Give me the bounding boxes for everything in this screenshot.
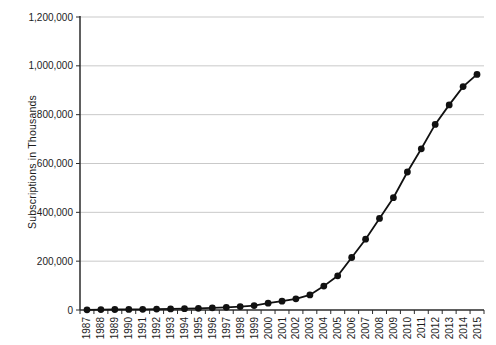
x-tick-label: 1996 xyxy=(207,317,218,340)
x-tick-label: 1987 xyxy=(81,317,92,340)
data-point-2005 xyxy=(334,272,341,279)
data-point-1993 xyxy=(167,306,174,313)
x-tick-label: 2000 xyxy=(263,317,274,340)
x-tick-label: 2011 xyxy=(416,317,427,339)
x-tick-label: 1998 xyxy=(235,317,246,340)
y-tick-label: 400,000 xyxy=(37,207,74,218)
data-points xyxy=(84,71,481,313)
x-tick-label: 2005 xyxy=(332,317,343,340)
x-tick-label: 1992 xyxy=(151,317,162,340)
data-point-2006 xyxy=(348,254,355,261)
x-tick-label: 1989 xyxy=(109,317,120,340)
x-tick-label: 1999 xyxy=(249,317,260,340)
data-point-2001 xyxy=(279,298,286,305)
y-tick-label: 600,000 xyxy=(37,158,74,169)
data-point-2003 xyxy=(307,292,314,299)
x-tick-label: 2012 xyxy=(430,317,441,340)
data-point-1998 xyxy=(237,303,244,310)
data-point-1991 xyxy=(139,306,146,313)
data-point-2007 xyxy=(362,236,369,243)
data-point-1994 xyxy=(181,305,188,312)
x-tick-label: 1993 xyxy=(165,317,176,340)
data-point-1997 xyxy=(223,304,230,311)
data-point-1990 xyxy=(125,306,132,313)
data-point-2000 xyxy=(265,300,272,307)
chart-figure: Subscriptions in Thousands 0200,000400,0… xyxy=(0,0,496,345)
x-tick-label: 2014 xyxy=(458,317,469,340)
data-point-2009 xyxy=(390,194,397,201)
y-tick-label: 1,000,000 xyxy=(29,60,74,71)
x-tick-label: 2002 xyxy=(290,317,301,340)
x-tick-label: 2008 xyxy=(374,317,385,340)
y-tick-label: 1,200,000 xyxy=(29,12,74,23)
data-point-1995 xyxy=(195,305,202,312)
x-tick-label: 2007 xyxy=(360,317,371,340)
data-point-1992 xyxy=(153,306,160,313)
y-axis-title: Subscriptions in Thousands xyxy=(26,82,38,242)
x-tick-label: 1994 xyxy=(179,317,190,340)
x-tick-label: 2009 xyxy=(388,317,399,340)
x-tick-label: 1995 xyxy=(193,317,204,340)
x-tick-label: 2013 xyxy=(444,317,455,340)
data-point-2013 xyxy=(446,102,453,109)
x-tick-label: 1990 xyxy=(123,317,134,340)
data-point-1999 xyxy=(251,302,258,309)
x-tick-label: 1988 xyxy=(95,317,106,340)
data-point-2002 xyxy=(293,295,300,302)
x-tick-label: 1997 xyxy=(221,317,232,340)
data-point-2012 xyxy=(432,121,439,128)
data-point-2011 xyxy=(418,145,425,152)
data-point-1988 xyxy=(98,306,105,313)
y-tick-label: 200,000 xyxy=(37,256,74,267)
x-tick-label: 2004 xyxy=(318,317,329,340)
x-tick-label: 1991 xyxy=(137,317,148,340)
x-tick-label: 2003 xyxy=(304,317,315,340)
x-tick-label: 2001 xyxy=(277,317,288,340)
x-tick-label: 2010 xyxy=(402,317,413,340)
data-point-2010 xyxy=(404,169,411,176)
data-point-2014 xyxy=(460,83,467,90)
data-point-1987 xyxy=(84,306,91,313)
data-point-2004 xyxy=(320,283,327,290)
data-point-1989 xyxy=(111,306,118,313)
x-axis: 1987198819891990199119921993199419951996… xyxy=(80,310,484,339)
data-line xyxy=(87,74,477,309)
y-tick-label: 800,000 xyxy=(37,109,74,120)
data-point-2015 xyxy=(474,71,481,78)
x-tick-label: 2006 xyxy=(346,317,357,340)
line-chart: 0200,000400,000600,000800,0001,000,0001,… xyxy=(0,0,496,345)
x-tick-label: 2015 xyxy=(472,317,483,340)
data-point-2008 xyxy=(376,215,383,222)
data-point-1996 xyxy=(209,304,216,311)
gridlines xyxy=(80,17,484,261)
y-tick-label: 0 xyxy=(67,305,73,316)
